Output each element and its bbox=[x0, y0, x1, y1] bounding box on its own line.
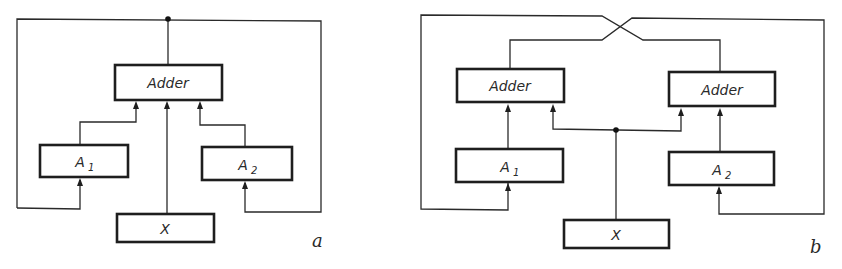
x-label: X bbox=[610, 227, 621, 243]
arrow-up-icon bbox=[678, 108, 684, 116]
panel-b-right-feedback bbox=[510, 18, 824, 214]
panel-b-a1-block: A 1 bbox=[456, 149, 563, 182]
panel-b-a2-block: A 2 bbox=[669, 152, 774, 185]
a2-subscript: 2 bbox=[725, 170, 731, 181]
arrow-up-icon bbox=[716, 186, 722, 194]
adder-label: Adder bbox=[146, 75, 190, 91]
panel-a-a2-to-adder bbox=[200, 106, 245, 147]
x-label: X bbox=[159, 221, 170, 237]
a2-label: A bbox=[711, 162, 722, 178]
panel-a-a2-block: A 2 bbox=[202, 147, 292, 180]
a1-label: A bbox=[74, 154, 85, 170]
panel-b-x-to-adders bbox=[553, 108, 681, 220]
arrow-up-icon bbox=[717, 108, 723, 116]
arrow-up-icon bbox=[77, 178, 83, 186]
arrow-up-icon bbox=[133, 101, 139, 109]
arrow-up-icon bbox=[505, 104, 511, 112]
panel-b-x-block: X bbox=[564, 220, 669, 248]
panel-b-tag: b bbox=[810, 236, 822, 257]
panel-b-adder-right-block: Adder bbox=[669, 72, 775, 106]
panel-a-left-feedback bbox=[17, 180, 80, 209]
panel-b-junction-dot bbox=[613, 127, 619, 133]
arrow-up-icon bbox=[550, 104, 556, 112]
panel-a-a1-to-adder bbox=[80, 106, 136, 145]
panel-a: Adder A 1 A 2 X a bbox=[17, 16, 323, 251]
a1-subscript: 1 bbox=[88, 162, 94, 173]
block-diagram-canvas: Adder A 1 A 2 X a bbox=[0, 0, 842, 269]
panel-a-tag: a bbox=[312, 230, 323, 251]
panel-a-adder-block: Adder bbox=[115, 65, 222, 100]
arrow-up-icon bbox=[242, 181, 248, 189]
adder-left-label: Adder bbox=[488, 78, 532, 94]
a1-label: A bbox=[499, 159, 510, 175]
adder-right-label: Adder bbox=[700, 82, 744, 98]
panel-a-top-wire bbox=[17, 19, 321, 212]
arrow-up-icon bbox=[164, 101, 170, 109]
a2-label: A bbox=[237, 157, 248, 173]
a2-subscript: 2 bbox=[251, 165, 257, 176]
panel-a-junction-dot bbox=[165, 16, 171, 22]
arrow-up-icon bbox=[197, 101, 203, 109]
arrow-up-icon bbox=[505, 183, 511, 191]
panel-a-a1-block: A 1 bbox=[40, 145, 128, 177]
a1-subscript: 1 bbox=[513, 167, 519, 178]
panel-b: Adder Adder A 1 A 2 X b bbox=[421, 15, 824, 257]
panel-b-adder-left-block: Adder bbox=[457, 69, 564, 102]
panel-a-x-block: X bbox=[117, 214, 214, 242]
